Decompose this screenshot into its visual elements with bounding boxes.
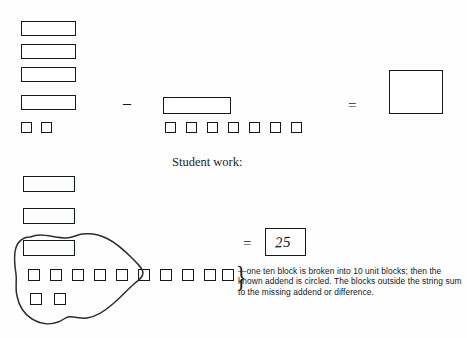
unit-block: [291, 122, 302, 133]
ten-block: [21, 21, 76, 36]
unit-block-circled: [30, 293, 42, 305]
unit-block-circled: [28, 269, 40, 281]
ten-block: [21, 95, 76, 110]
ten-block: [23, 208, 75, 224]
ten-block-circled: [23, 240, 75, 256]
unit-block-outside: [182, 269, 194, 281]
unit-block: [207, 122, 218, 133]
student-answer-value: 25: [275, 234, 292, 252]
figure-canvas: – = Student work:: [0, 0, 467, 338]
unit-block-circled: [116, 269, 128, 281]
unit-block-circled: [54, 293, 66, 305]
unit-block: [249, 122, 260, 133]
unit-block-outside: [138, 269, 150, 281]
equals-operator-student: =: [243, 236, 251, 251]
ten-block: [21, 67, 76, 82]
equals-operator-top: =: [348, 98, 356, 113]
unit-block: [165, 122, 176, 133]
unit-block-outside: [204, 269, 216, 281]
unit-block-circled: [72, 269, 84, 281]
annotation-text: —one ten block is broken into 10 unit bl…: [238, 266, 466, 297]
unit-block-outside: [222, 269, 234, 281]
minus-operator: –: [123, 95, 131, 111]
unit-block: [21, 122, 32, 133]
unit-block-outside: [160, 269, 172, 281]
unit-block-circled: [94, 269, 106, 281]
ten-block: [163, 97, 231, 114]
unit-block: [270, 122, 281, 133]
unit-block-circled: [50, 269, 62, 281]
unit-block: [186, 122, 197, 133]
student-work-caption: Student work:: [172, 155, 242, 170]
unit-block: [41, 122, 52, 133]
ten-block: [23, 176, 75, 192]
empty-answer-box[interactable]: [389, 70, 443, 114]
student-answer-box[interactable]: 25: [265, 228, 306, 256]
unit-block: [228, 122, 239, 133]
ten-block: [21, 44, 76, 59]
